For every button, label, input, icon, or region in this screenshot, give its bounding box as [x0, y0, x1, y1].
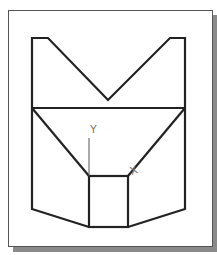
top-v-section	[32, 38, 185, 108]
cad-drawing: Y X	[0, 0, 217, 255]
center-square	[89, 176, 128, 227]
y-axis-label: Y	[89, 123, 97, 136]
right-diagonal	[128, 108, 185, 176]
profile-outline	[32, 38, 185, 227]
ucs-axes: Y X	[89, 123, 140, 178]
left-diagonal	[32, 108, 89, 176]
